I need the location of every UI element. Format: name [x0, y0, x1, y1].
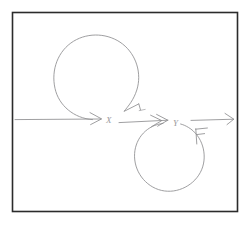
- upper-loop-arrowhead: [139, 104, 141, 110]
- diagram-svg: X Y: [0, 0, 250, 225]
- node-label-x: X: [105, 115, 112, 125]
- lower-self-loop: [135, 123, 205, 191]
- sketch-canvas: X Y: [0, 0, 250, 225]
- lower-loop-arrowhead: [196, 128, 208, 129]
- node-label-y: Y: [173, 118, 179, 128]
- outgoing-arrow-shaft: [191, 119, 234, 120]
- incoming-arrow-shaft: [15, 119, 101, 120]
- upper-self-loop: [54, 35, 139, 120]
- frame-border: [13, 13, 238, 212]
- lower-loop-arrowhead-lower-tick: [197, 134, 205, 135]
- lower-loop-arrowhead-stem: [196, 129, 197, 144]
